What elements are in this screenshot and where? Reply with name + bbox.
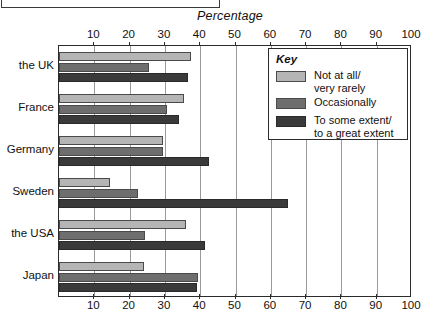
gridline-50 (236, 46, 237, 296)
x-tickmark-60 (270, 294, 271, 299)
x-axis-top: 102030405060708090100 (58, 28, 411, 42)
category-label-the-uk: the UK (19, 59, 54, 71)
x-tick-label-30: 30 (157, 28, 170, 40)
x-tick-label-30: 30 (157, 299, 170, 311)
legend-swatch-2 (276, 116, 306, 127)
category-label-sweden: Sweden (12, 185, 54, 197)
x-tickmark-10 (93, 294, 94, 299)
x-tick-label-40: 40 (193, 28, 206, 40)
x-tickmark-50 (235, 294, 236, 299)
x-tick-label-70: 70 (299, 28, 312, 40)
x-tick-label-80: 80 (334, 299, 347, 311)
x-tickmark-80 (340, 294, 341, 299)
legend-swatch-1 (276, 98, 306, 109)
x-tickmark-70 (305, 294, 306, 299)
bar-sweden-series-0 (59, 178, 110, 187)
x-tick-label-50: 50 (228, 28, 241, 40)
legend-swatch-0 (276, 71, 306, 82)
x-tick-label-100: 100 (401, 299, 420, 311)
x-axis-bottom: 102030405060708090100 (58, 299, 411, 313)
chart-title: Percentage (170, 9, 290, 23)
category-label-france: France (18, 101, 54, 113)
bar-japan-series-2 (59, 283, 197, 292)
bar-sweden-series-2 (59, 199, 288, 208)
legend-label-0: Not at all/ very rarely (314, 69, 365, 94)
category-label-germany: Germany (7, 143, 54, 155)
bar-the-usa-series-1 (59, 231, 145, 240)
x-tick-label-10: 10 (87, 299, 100, 311)
x-tick-label-40: 40 (193, 299, 206, 311)
bar-the-uk-series-2 (59, 73, 188, 82)
gridline-30 (165, 46, 166, 296)
bar-japan-series-0 (59, 262, 144, 271)
bar-germany-series-2 (59, 157, 209, 166)
legend-label-1: Occasionally (314, 96, 376, 109)
bar-the-uk-series-1 (59, 63, 149, 72)
x-tick-label-60: 60 (263, 28, 276, 40)
x-tick-label-90: 90 (369, 28, 382, 40)
x-tickmark-90 (376, 294, 377, 299)
x-tickmark-30 (164, 294, 165, 299)
category-label-japan: Japan (23, 269, 54, 281)
legend-title: Key (276, 53, 297, 65)
x-tick-label-50: 50 (228, 299, 241, 311)
chart-canvas: Percentage 102030405060708090100 the UKF… (0, 0, 426, 319)
x-tickmark-20 (129, 294, 130, 299)
legend-label-2: To some extent/ to a great extent (314, 114, 394, 139)
x-tick-label-10: 10 (87, 28, 100, 40)
bar-sweden-series-1 (59, 189, 138, 198)
legend-item-1: Occasionally (276, 96, 376, 109)
legend-item-2: To some extent/ to a great extent (276, 114, 394, 139)
legend: Key Not at all/ very rarelyOccasionallyT… (268, 48, 408, 140)
bar-the-uk-series-0 (59, 52, 191, 61)
bar-france-series-1 (59, 105, 167, 114)
x-tickmark-40 (199, 294, 200, 299)
x-tick-label-70: 70 (299, 299, 312, 311)
gridline-10 (94, 46, 95, 296)
bar-the-usa-series-0 (59, 220, 186, 229)
gridline-40 (200, 46, 201, 296)
bar-france-series-2 (59, 115, 179, 124)
bar-germany-series-1 (59, 147, 163, 156)
category-label-the-usa: the USA (11, 227, 54, 239)
caption-box (1, 0, 220, 8)
x-tick-label-20: 20 (122, 28, 135, 40)
x-tick-label-80: 80 (334, 28, 347, 40)
x-tick-label-60: 60 (263, 299, 276, 311)
bar-japan-series-1 (59, 273, 198, 282)
legend-item-0: Not at all/ very rarely (276, 69, 365, 94)
x-tick-label-100: 100 (401, 28, 420, 40)
x-tick-label-90: 90 (369, 299, 382, 311)
y-axis-category-labels: the UKFranceGermanySwedenthe USAJapan (0, 45, 54, 297)
bar-france-series-0 (59, 94, 184, 103)
gridline-20 (130, 46, 131, 296)
x-tick-label-20: 20 (122, 299, 135, 311)
bar-germany-series-0 (59, 136, 163, 145)
bar-the-usa-series-2 (59, 241, 205, 250)
